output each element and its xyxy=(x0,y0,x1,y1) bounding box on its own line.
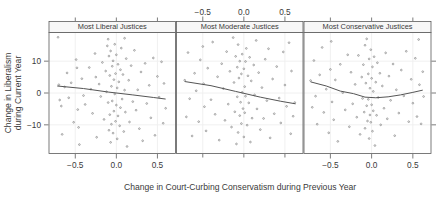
panel-0: Most Liberal Justices−0.50.00.5 xyxy=(49,18,176,170)
x-tick-label-top-0: −0.5 xyxy=(195,7,212,17)
chart-figure: Change in Liberalismduring Current YearC… xyxy=(0,0,444,200)
trellis-plot-svg: Change in Liberalismduring Current YearC… xyxy=(0,0,444,200)
x-tick-label-bottom-2: 0.5 xyxy=(407,160,419,170)
x-tick-label-bottom-0: −0.5 xyxy=(322,160,339,170)
x-tick-label-bottom-0: −0.5 xyxy=(67,160,84,170)
x-tick-label-bottom-2: 0.5 xyxy=(152,160,164,170)
panel-2: Most Conservative Justices−0.50.00.5 xyxy=(304,18,431,170)
strip-label-1: Most Moderate Justices xyxy=(201,22,279,31)
strip-label-2: Most Conservative Justices xyxy=(323,22,413,31)
y-axis-label-line2: during Current Year xyxy=(13,56,23,131)
y-tick-label-1: 0 xyxy=(36,88,41,98)
x-axis-label: Change in Court-Curbing Conservatism dur… xyxy=(124,182,356,192)
y-tick-label-0: −10 xyxy=(27,120,41,130)
panel-1: Most Moderate Justices−0.50.00.5 xyxy=(177,7,304,158)
x-tick-label-top-2: 0.5 xyxy=(279,7,291,17)
x-tick-label-bottom-1: 0.0 xyxy=(111,160,123,170)
x-tick-label-bottom-1: 0.0 xyxy=(366,160,378,170)
strip-label-0: Most Liberal Justices xyxy=(78,22,147,31)
y-axis-label-line1: Change in Liberalism xyxy=(3,53,13,134)
x-tick-label-top-1: 0.0 xyxy=(238,7,250,17)
y-tick-label-2: 10 xyxy=(32,56,42,66)
